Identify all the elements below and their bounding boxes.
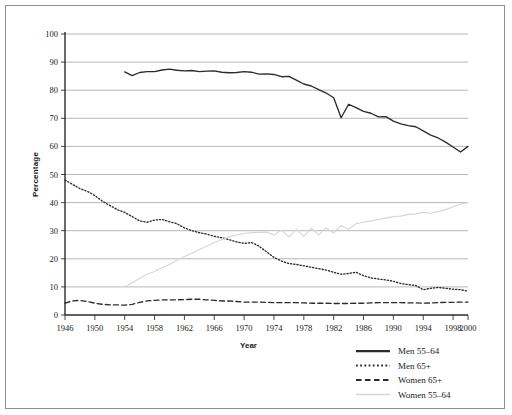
x-axis-tick-label: 1954 [116,323,134,333]
legend-label-3: Women 65+ [398,375,442,385]
y-axis-tick-label: 80 [50,85,59,95]
x-axis-tick-label: 1958 [146,323,163,333]
legend-label-2: Men 65+ [398,361,431,371]
x-axis-tick-label: 1974 [265,323,283,333]
y-axis-tick-label: 60 [50,141,59,151]
x-axis-title: Year [240,341,257,350]
series-line-men-65 [65,180,468,291]
series-line-women-65 [65,299,468,305]
x-axis-tick-label: 1962 [176,323,193,333]
x-axis-tick-label: 1982 [325,323,342,333]
x-axis-tick-label: 2000 [460,323,477,333]
y-axis-tick-label: 90 [50,57,59,67]
x-axis-tick-label: 1986 [355,323,372,333]
x-axis-tick-label: 1946 [57,323,74,333]
y-axis-tick-label: 30 [50,226,59,236]
line-chart-svg: 0102030405060708090100194619501954195819… [6,6,506,410]
chart-plot-area: 0102030405060708090100194619501954195819… [6,6,506,410]
x-axis-tick-label: 1966 [206,323,223,333]
x-axis-tick-label: 1970 [236,323,253,333]
y-axis-tick-label: 20 [50,254,59,264]
y-axis-tick-label: 50 [50,170,59,180]
legend-label-4: Women 55–64 [398,390,451,400]
legend-label-1: Men 55–64 [398,346,440,356]
series-line-women-55-64 [125,203,468,287]
x-axis-tick-label: 1990 [385,323,402,333]
y-axis-tick-label: 70 [50,113,59,123]
chart-figure: 0102030405060708090100194619501954195819… [5,5,505,409]
y-axis-tick-label: 10 [50,282,59,292]
y-axis-tick-label: 0 [54,310,58,320]
y-axis-tick-label: 100 [45,29,58,39]
x-axis-tick-label: 1994 [415,323,433,333]
y-axis-tick-label: 40 [50,198,59,208]
x-axis-tick-label: 1950 [86,323,103,333]
y-axis-title: Percentage [31,152,40,197]
series-line-men-55-64 [125,69,468,152]
x-axis-tick-label: 1978 [295,323,312,333]
